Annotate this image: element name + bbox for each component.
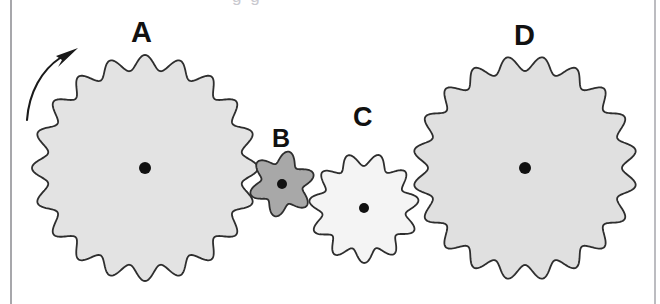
gear-hub-c — [359, 203, 369, 213]
gears-layer — [32, 55, 636, 281]
gear-a — [32, 55, 258, 281]
gear-hub-a — [139, 162, 151, 174]
gear-hub-d — [519, 162, 531, 174]
gear-train-figure: g g A B C D — [0, 0, 660, 304]
gear-train-canvas — [0, 0, 660, 304]
gear-c — [309, 155, 418, 263]
gear-d — [414, 57, 635, 278]
rotation-arrow-head — [56, 48, 78, 67]
gear-b — [250, 152, 313, 217]
gear-hub-b — [277, 179, 287, 189]
gear-label-b: B — [272, 126, 290, 151]
gear-label-a: A — [131, 18, 152, 47]
gear-label-c: C — [353, 104, 373, 131]
gear-label-d: D — [514, 21, 535, 50]
